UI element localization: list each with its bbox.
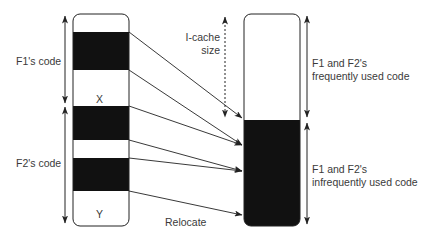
infrequent-block (244, 120, 300, 226)
x-marker-label: X (96, 93, 103, 106)
relocated-layout-box (244, 14, 300, 226)
relocation-arrows (129, 32, 242, 215)
f1-code-label: F1's code (16, 55, 61, 68)
icache-size-label-line2: size (180, 44, 220, 57)
f1-hot-block (73, 32, 129, 70)
infrequent-code-label-line2: infrequently used code (312, 176, 418, 189)
f2-hot-block-1 (73, 106, 129, 140)
f2-hot-block-2 (73, 158, 129, 191)
frequent-code-label-line1: F1 and F2's (312, 57, 367, 70)
relocate-label: Relocate (165, 216, 206, 229)
y-marker-label: Y (96, 208, 103, 221)
icache-size-label-line1: I-cache (180, 31, 220, 44)
original-layout-box (73, 14, 129, 226)
f2-code-label: F2's code (16, 157, 61, 170)
infrequent-code-label-line1: F1 and F2's (312, 163, 367, 176)
frequent-code-label-line2: frequently used code (312, 70, 409, 83)
